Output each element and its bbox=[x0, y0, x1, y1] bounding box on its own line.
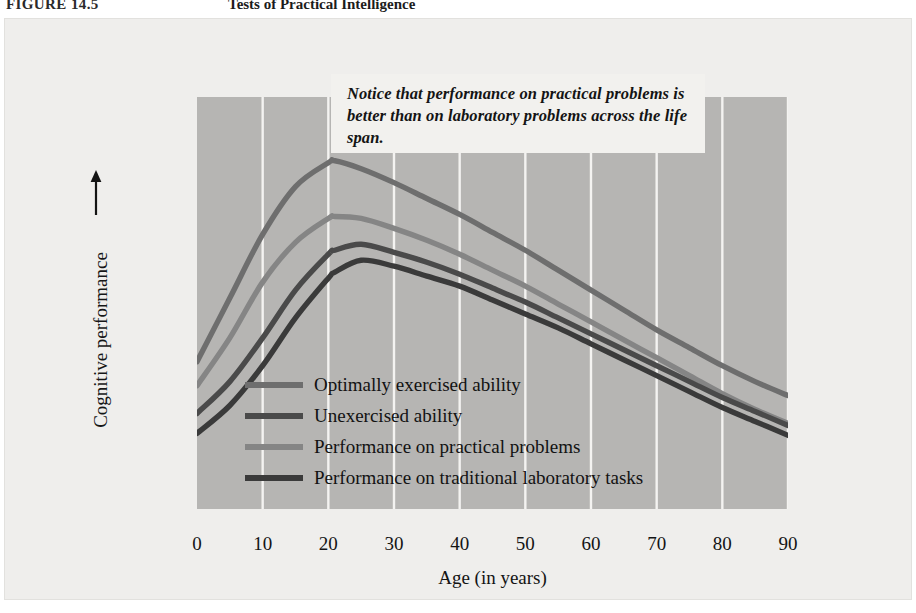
legend-item[interactable]: Unexercised ability bbox=[245, 400, 643, 431]
legend-item[interactable]: Performance on practical problems bbox=[245, 431, 643, 462]
x-axis-tick-40: 40 bbox=[450, 533, 469, 555]
legend-swatch-unexercised-ability bbox=[245, 413, 303, 419]
legend-item[interactable]: Optimally exercised ability bbox=[245, 369, 643, 400]
y-axis-label-group: Cognitive performance bbox=[81, 169, 111, 519]
figure-number: FIGURE 14.5 bbox=[6, 0, 99, 13]
x-axis-tick-80: 80 bbox=[713, 533, 732, 555]
x-axis-tick-60: 60 bbox=[582, 533, 601, 555]
x-axis-tick-70: 70 bbox=[647, 533, 666, 555]
legend-item[interactable]: Performance on traditional laboratory ta… bbox=[245, 462, 643, 493]
figure-title: Tests of Practical Intelligence bbox=[228, 0, 415, 13]
figure-header: FIGURE 14.5 Tests of Practical Intellige… bbox=[0, 0, 916, 18]
legend-swatch-optimally-exercised-ability bbox=[245, 382, 303, 388]
legend-label-performance-laboratory-tasks: Performance on traditional laboratory ta… bbox=[314, 467, 643, 489]
x-axis-tick-50: 50 bbox=[516, 533, 535, 555]
x-axis-tick-20: 20 bbox=[319, 533, 338, 555]
chart-legend: Optimally exercised ability Unexercised … bbox=[245, 369, 643, 493]
callout-box: Notice that performance on practical pro… bbox=[331, 74, 705, 153]
callout-text: Notice that performance on practical pro… bbox=[347, 83, 691, 148]
x-axis-tick-0: 0 bbox=[192, 533, 202, 555]
x-axis-tick-30: 30 bbox=[385, 533, 404, 555]
x-axis-tick-labels: 0102030405060708090 bbox=[197, 533, 788, 559]
legend-label-unexercised-ability: Unexercised ability bbox=[314, 405, 462, 427]
legend-label-optimally-exercised-ability: Optimally exercised ability bbox=[314, 374, 521, 396]
legend-swatch-performance-laboratory-tasks bbox=[245, 475, 303, 481]
x-axis-tick-10: 10 bbox=[253, 533, 272, 555]
legend-label-performance-practical-problems: Performance on practical problems bbox=[314, 436, 580, 458]
data-curve bbox=[197, 160, 788, 396]
x-axis-label: Age (in years) bbox=[197, 567, 788, 589]
y-axis-label: Cognitive performance bbox=[90, 175, 112, 505]
legend-swatch-performance-practical-problems bbox=[245, 444, 303, 450]
figure-panel: Cognitive performance Optimally exercise… bbox=[4, 18, 912, 600]
x-axis-tick-90: 90 bbox=[779, 533, 798, 555]
plot-wrapper: Optimally exercised ability Unexercised … bbox=[197, 97, 788, 509]
